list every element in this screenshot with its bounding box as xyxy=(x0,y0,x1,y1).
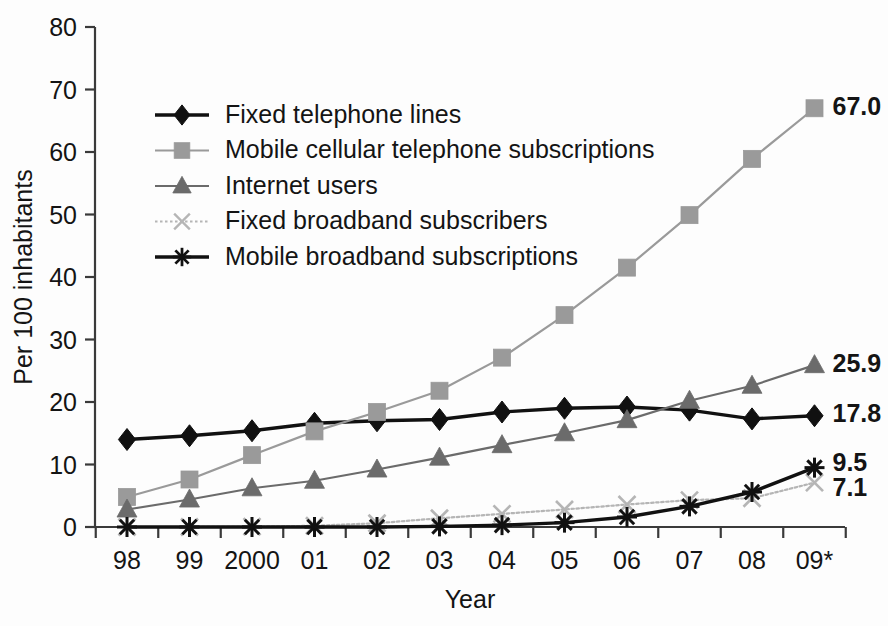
series-line xyxy=(127,468,815,527)
x-tick-label: 06 xyxy=(613,546,641,574)
data-point-marker-square xyxy=(244,447,261,464)
data-point-marker-square xyxy=(806,100,823,117)
data-point-marker-asterisk xyxy=(492,515,512,535)
series-0 xyxy=(118,396,823,451)
x-tick-label: 01 xyxy=(301,546,329,574)
series-end-value-label: 9.5 xyxy=(833,448,868,476)
data-point-marker-diamond xyxy=(181,425,198,447)
legend-item-2[interactable]: Internet users xyxy=(155,171,378,199)
chart-legend: Fixed telephone linesMobile cellular tel… xyxy=(155,100,654,270)
data-point-marker-square xyxy=(369,404,386,421)
y-tick-label: 30 xyxy=(49,326,77,354)
series-2 xyxy=(117,355,824,517)
data-point-marker-diamond xyxy=(493,401,510,423)
data-point-marker-square xyxy=(681,207,698,224)
x-tick-label: 99 xyxy=(176,546,204,574)
y-axis-ticks: 01020304050607080 xyxy=(49,13,95,541)
y-tick-label: 70 xyxy=(49,76,77,104)
data-point-marker-diamond xyxy=(556,397,573,419)
legend-item-0[interactable]: Fixed telephone lines xyxy=(155,100,461,128)
legend-label: Fixed telephone lines xyxy=(225,100,461,128)
legend-item-3[interactable]: Fixed broadband subscribers xyxy=(155,206,547,234)
series-end-value-label: 17.8 xyxy=(833,399,882,427)
x-axis-ticks: 98992000010203040506070809* xyxy=(96,527,846,574)
series-group xyxy=(117,100,825,537)
y-tick-label: 40 xyxy=(49,263,77,291)
x-tick-label: 07 xyxy=(676,546,704,574)
data-point-marker-diamond xyxy=(806,405,823,427)
series-line xyxy=(127,483,815,527)
data-point-marker-diamond xyxy=(243,420,260,442)
data-point-marker-asterisk xyxy=(805,458,825,478)
data-point-marker-asterisk xyxy=(180,517,200,537)
series-line xyxy=(127,407,815,440)
data-point-marker-asterisk xyxy=(242,517,262,537)
data-point-marker-diamond xyxy=(743,408,760,430)
legend-item-1[interactable]: Mobile cellular telephone subscriptions xyxy=(155,135,654,163)
data-point-marker-square xyxy=(431,382,448,399)
y-axis-title: Per 100 inhabitants xyxy=(9,169,37,384)
series-end-value-label: 25.9 xyxy=(833,349,882,377)
x-tick-label: 02 xyxy=(363,546,391,574)
legend-label: Fixed broadband subscribers xyxy=(225,206,547,234)
data-point-marker-diamond xyxy=(174,105,190,125)
data-point-marker-square xyxy=(306,423,323,440)
series-4 xyxy=(117,458,825,537)
data-point-marker-asterisk xyxy=(617,507,637,527)
x-tick-label: 04 xyxy=(488,546,516,574)
y-tick-label: 10 xyxy=(49,451,77,479)
y-tick-label: 20 xyxy=(49,388,77,416)
x-tick-label: 09* xyxy=(796,546,834,574)
x-tick-label: 08 xyxy=(738,546,766,574)
series-end-value-label: 7.1 xyxy=(833,473,868,501)
data-point-marker-asterisk xyxy=(117,517,137,537)
data-point-marker-diamond xyxy=(118,429,135,451)
end-labels-group: 17.867.025.97.19.5 xyxy=(833,92,882,501)
series-line xyxy=(127,365,815,509)
data-point-marker-asterisk xyxy=(367,517,387,537)
series-end-value-label: 67.0 xyxy=(833,92,882,120)
y-tick-label: 0 xyxy=(63,513,77,541)
data-point-marker-square xyxy=(174,143,190,159)
x-axis-title: Year xyxy=(445,585,496,613)
data-point-marker-square xyxy=(619,259,636,276)
legend-item-4[interactable]: Mobile broadband subscriptions xyxy=(155,242,578,270)
data-point-marker-asterisk xyxy=(305,517,325,537)
series-line xyxy=(127,108,815,497)
data-point-marker-square xyxy=(744,150,761,167)
x-tick-label: 05 xyxy=(551,546,579,574)
data-point-marker-asterisk xyxy=(430,516,450,536)
data-point-marker-square xyxy=(556,307,573,324)
x-tick-label: 2000 xyxy=(224,546,280,574)
data-point-marker-square xyxy=(181,471,198,488)
data-point-marker-square xyxy=(494,349,511,366)
chart-container: 01020304050607080 9899200001020304050607… xyxy=(0,0,888,626)
legend-label: Mobile cellular telephone subscriptions xyxy=(225,135,654,163)
data-point-marker-asterisk xyxy=(680,496,700,516)
legend-label: Internet users xyxy=(225,171,378,199)
y-tick-label: 50 xyxy=(49,201,77,229)
x-tick-label: 98 xyxy=(113,546,141,574)
y-tick-label: 60 xyxy=(49,138,77,166)
data-point-marker-asterisk xyxy=(173,248,191,266)
x-tick-label: 03 xyxy=(426,546,454,574)
data-point-marker-asterisk xyxy=(742,482,762,502)
y-tick-label: 80 xyxy=(49,13,77,41)
data-point-marker-triangle xyxy=(173,176,191,193)
data-point-marker-diamond xyxy=(431,409,448,431)
legend-label: Mobile broadband subscriptions xyxy=(225,242,578,270)
line-chart: 01020304050607080 9899200001020304050607… xyxy=(0,0,888,626)
data-point-marker-triangle xyxy=(805,355,825,373)
data-point-marker-asterisk xyxy=(555,513,575,533)
